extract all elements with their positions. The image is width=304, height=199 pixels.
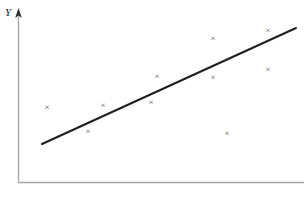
scatter-point-marker: × <box>100 100 105 110</box>
scatter-plot-figure: Y ×××××××××× <box>0 0 304 199</box>
scatter-point-marker: × <box>224 128 229 138</box>
regression-trendline <box>42 28 296 144</box>
plot-canvas: Y ×××××××××× <box>0 0 304 199</box>
scatter-point-marker: × <box>154 71 159 81</box>
scatter-point-marker: × <box>265 25 270 35</box>
scatter-point-marker: × <box>148 97 153 107</box>
scatter-point-marker: × <box>85 126 90 136</box>
scatter-point-marker: × <box>210 33 215 43</box>
y-axis-label: Y <box>5 6 13 18</box>
scatter-points-group: ×××××××××× <box>44 25 270 138</box>
scatter-point-marker: × <box>44 102 49 112</box>
scatter-point-marker: × <box>210 72 215 82</box>
scatter-point-marker: × <box>265 64 270 74</box>
